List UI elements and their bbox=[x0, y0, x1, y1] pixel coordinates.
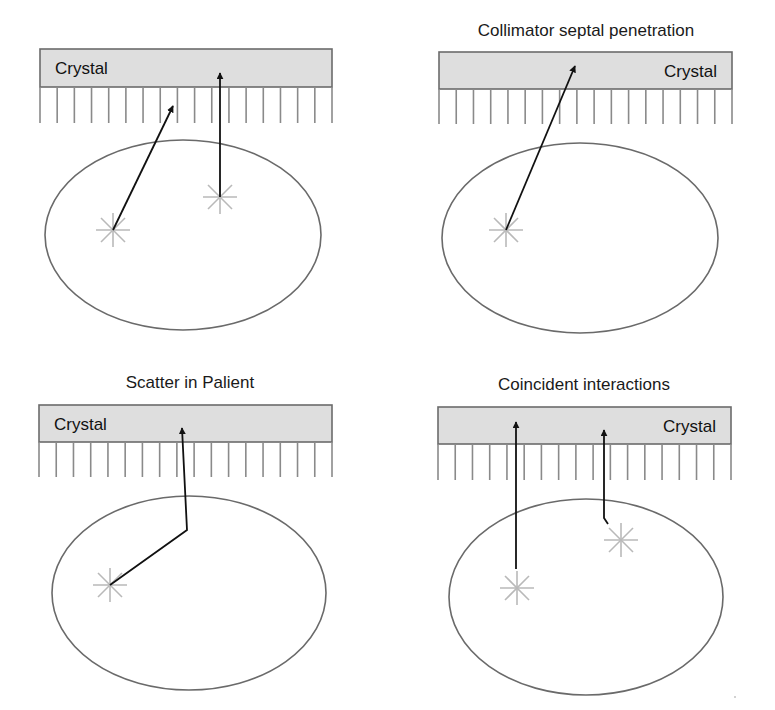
emission-source-star-icon bbox=[604, 523, 638, 557]
panel-coincident-interactions: Crystal bbox=[438, 407, 731, 695]
collimator-septa bbox=[439, 89, 732, 124]
speck bbox=[734, 696, 736, 698]
emission-source-star-icon bbox=[500, 571, 534, 605]
photon-path-arrow bbox=[506, 66, 575, 230]
panel-scatter-in-patient: Crystal bbox=[39, 405, 332, 690]
panel-title-coincident-interactions: Coincident interactions bbox=[498, 375, 670, 394]
collimator-septa bbox=[40, 87, 332, 123]
panel-title-scatter-in-patient: Scatter in Palient bbox=[126, 373, 255, 392]
patient-outline bbox=[449, 499, 723, 695]
patient-outline bbox=[52, 496, 326, 690]
crystal-label: Crystal bbox=[664, 62, 717, 81]
panel-collimator-septal-penetration: Crystal bbox=[439, 52, 732, 333]
panel-title-collimator-septal-penetration: Collimator septal penetration bbox=[478, 21, 694, 40]
crystal-label: Crystal bbox=[55, 59, 108, 78]
patient-outline bbox=[442, 143, 718, 333]
patient-outline bbox=[45, 140, 321, 330]
crystal-label: Crystal bbox=[663, 417, 716, 436]
collimator-septa bbox=[39, 442, 332, 477]
photon-path-arrow bbox=[110, 428, 187, 585]
collimator-septa bbox=[438, 444, 731, 480]
photon-path-arrow bbox=[113, 106, 173, 230]
panel-direct-and-penetration: Crystal bbox=[40, 49, 332, 330]
gamma-camera-interactions-figure: Collimator septal penetration Scatter in… bbox=[0, 0, 775, 710]
crystal-label: Crystal bbox=[54, 415, 107, 434]
